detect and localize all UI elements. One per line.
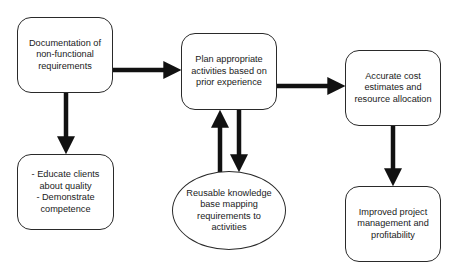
node-educate-label: - Educate clients about quality - Demons… xyxy=(32,169,100,215)
node-documentation: Documentation of non-functional requirem… xyxy=(17,17,113,93)
node-documentation-label: Documentation of non-functional requirem… xyxy=(29,38,101,73)
node-estimates-label: Accurate cost estimates and resource all… xyxy=(354,71,431,106)
node-improved-label: Improved project management and profitab… xyxy=(357,207,429,242)
node-estimates: Accurate cost estimates and resource all… xyxy=(345,50,441,126)
flowchart-canvas: Documentation of non-functional requirem… xyxy=(0,0,457,276)
node-improved: Improved project management and profitab… xyxy=(345,186,441,262)
node-knowledge-base: Reusable knowledge base mapping requirem… xyxy=(172,171,286,250)
node-knowledge-base-label: Reusable knowledge base mapping requirem… xyxy=(186,188,271,234)
node-plan: Plan appropriate activities based on pri… xyxy=(181,33,277,110)
node-plan-label: Plan appropriate activities based on pri… xyxy=(191,54,267,89)
node-educate: - Educate clients about quality - Demons… xyxy=(17,154,114,230)
